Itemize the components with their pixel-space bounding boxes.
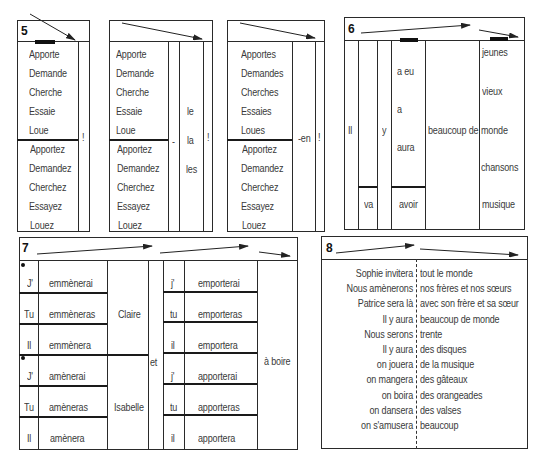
verb-form: Essaie [116,105,142,118]
quantity: beaucoup de [428,124,478,137]
verb-form: amènerai [49,370,85,383]
verb-form: Essaie [29,105,55,118]
sentence-end: trente [420,328,510,343]
exercise-number: 5 [21,24,28,38]
verb-form: Loues [241,124,265,137]
subject: Tu [24,308,34,321]
sentence-start: on s'amusera [339,419,413,434]
emphasis-bar [400,38,418,42]
sentence-start: Il y aura [339,313,413,328]
sentence-start: Nous amènerons [339,282,413,297]
subject: il [171,432,175,445]
sentence-start: on boira [339,389,413,404]
exercise-number: 8 [326,241,333,255]
verb-form: emmènerai [49,277,93,290]
verb-form: Cherche [116,86,149,99]
emphasis-bar [490,37,508,41]
verb-form: Demandes [241,67,283,80]
pronoun: les [186,163,197,176]
verb-form: Essaies [241,105,271,118]
verb-form: Apportes [241,48,276,61]
sentence-end: tout le monde [420,267,510,282]
exercise-number: 7 [22,241,29,255]
sentence-start: Sophie invitera [339,267,413,282]
verb-form: apporteras [198,401,239,414]
liaison-dot [21,263,25,267]
exercise-number: 6 [348,22,355,36]
verb-form: Loue [29,124,48,137]
sentence-start: Nous serons [339,328,413,343]
verb-form: amènera [50,432,84,445]
pronoun: la [187,134,194,147]
liaison-dot [21,356,25,360]
sentence-end: beaucoup [420,419,510,434]
verb-form: Louez [242,219,266,232]
verb-form: Demande [29,67,67,80]
subject: Tu [24,401,34,414]
emphasis-bar [35,40,55,44]
verb-form: Demandez [241,162,283,175]
verb-form: Essayez [29,200,62,213]
verb-form: emmènera [49,339,91,352]
verb-form: aura [397,141,414,154]
verb-form: Demandez [29,162,71,175]
sentence-end: de la musique [420,358,510,373]
ex8-right-column: tout le monde nos frères et nos sœurs av… [420,267,530,434]
person-name: Isabelle [114,401,144,414]
verb-form: Louez [118,219,142,232]
subject: J' [27,277,33,290]
verb-form: amèneras [49,401,88,414]
subject: Il [348,124,352,137]
subject: J' [27,370,33,383]
verb-form: emporterai [198,277,239,290]
verb-va: va [364,198,373,211]
subject: il [171,339,175,352]
verb-form: Essayez [117,200,150,213]
verb-form: Louez [30,219,54,232]
noun: monde [481,124,508,137]
verb-form: Cherche [29,86,62,99]
exclamation: ! [318,131,320,144]
subject: Il [27,339,31,352]
subject: j' [171,277,174,290]
verb-form: Apportez [30,143,65,156]
subject: j' [171,370,174,383]
sentence-start: Patrice sera là [339,297,413,312]
subject: tu [170,401,177,414]
verb-form: Cherchez [241,181,278,194]
object: à boire [264,355,290,368]
dashed-divider [416,259,417,449]
noun: jeunes [482,46,508,59]
sentence-start: on dansera [339,404,413,419]
verb-form: Apportez [242,143,277,156]
sentence-start: Il y aura [339,343,413,358]
verb-form: Apporte [29,48,59,61]
verb-form: Apporte [116,48,146,61]
noun: musique [482,198,515,211]
pronoun-y: y [382,124,386,137]
pronoun-en: -en [298,132,311,145]
verb-form: Loue [116,124,135,137]
sentence-end: avec son frère et sa sœur [420,297,510,312]
conjunction: et [150,356,157,369]
verb-form: apportera [198,432,235,445]
sentence-end: des valses [420,404,510,419]
verb-form: Cherchez [29,181,66,194]
hyphen: - [172,135,175,148]
verb-form: Demandez [117,162,159,175]
verb-form: a [397,103,402,116]
verb-form: Essayez [241,200,274,213]
noun: vieux [482,85,502,98]
verb-form: Apportez [117,143,152,156]
verb-form: Cherches [241,86,278,99]
verb-form: Demande [116,67,154,80]
sentence-end: des gâteaux [420,373,510,388]
verb-form: apporterai [198,370,237,383]
exclamation: ! [207,131,209,144]
pronoun: le [187,105,194,118]
person-name: Claire [118,308,141,321]
sentence-start: on mangera [339,373,413,388]
verb-avoir: avoir [399,198,418,211]
verb-form: a eu [397,65,414,78]
exclamation: ! [82,131,84,144]
